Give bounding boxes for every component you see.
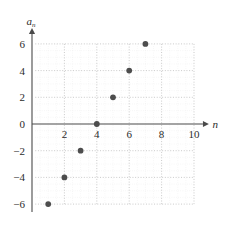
y-axis-label-subscript: n — [32, 21, 36, 29]
x-axis-arrow-icon — [203, 121, 209, 127]
axes — [29, 28, 209, 212]
y-axis-label: an — [27, 15, 37, 30]
x-tick-label: 6 — [126, 128, 132, 140]
x-tick-label: 10 — [189, 128, 201, 140]
x-tick-label: 2 — [62, 128, 68, 140]
y-tick-label: 0 — [20, 118, 26, 130]
y-tick-label: −2 — [13, 145, 25, 157]
data-point — [78, 148, 84, 154]
x-tick-label: 4 — [94, 128, 100, 140]
data-point — [94, 121, 100, 127]
x-axis-tick-labels: 246810 — [62, 128, 200, 140]
data-point — [62, 175, 68, 181]
data-point — [110, 94, 116, 100]
x-axis-label: n — [212, 118, 218, 130]
y-tick-label: 6 — [20, 38, 26, 50]
y-tick-label: 2 — [20, 91, 26, 103]
x-tick-label: 8 — [159, 128, 165, 140]
data-point — [45, 201, 51, 207]
y-tick-label: −6 — [13, 198, 25, 210]
plot-canvas: 246810 6420−2−4−6 n an — [0, 0, 226, 229]
y-tick-label: 4 — [20, 65, 26, 77]
y-tick-label: −4 — [13, 171, 25, 183]
data-point — [143, 41, 149, 47]
data-point — [126, 68, 132, 74]
y-axis-tick-labels: 6420−2−4−6 — [13, 38, 25, 210]
scatter-plot-figure: 246810 6420−2−4−6 n an — [0, 0, 226, 229]
